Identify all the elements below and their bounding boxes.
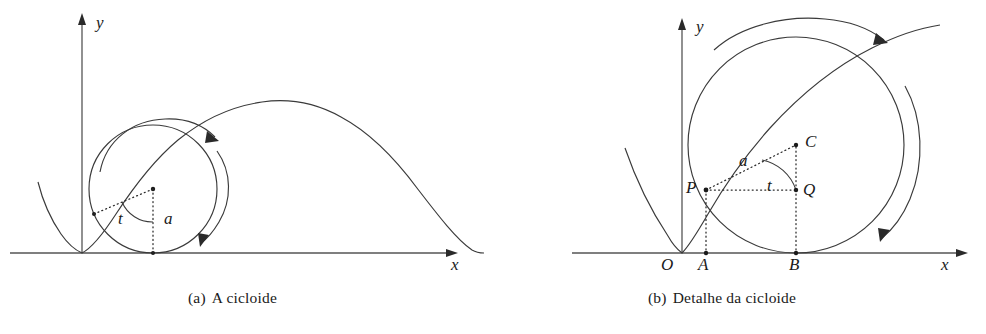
figure-a-radius-label: a (164, 210, 173, 227)
figure-a-y-axis-label: y (96, 14, 104, 31)
figure-b-segment-PC (706, 145, 796, 190)
figure-a-angle-label: t (118, 210, 123, 227)
figure-a-y-axis-arrowhead (78, 13, 86, 25)
figure-b-y-axis-arrowhead (678, 18, 686, 30)
figure-b-rotation-arrow-top-head (873, 33, 888, 45)
figure-b-rotation-arrow-top (714, 18, 884, 50)
figure-a-x-axis-label: x (451, 256, 459, 273)
figure-b-point-Q-dot (794, 188, 798, 192)
figure-b-caption-text: Detalhe da cicloide (673, 289, 796, 306)
figure-b-x-axis-arrowhead (956, 249, 968, 257)
figure-b-point-label-C: C (805, 133, 816, 150)
figure-b-group (572, 18, 968, 257)
figure-b-rotation-arrow-right (882, 86, 920, 238)
figure-a-cycloid-curve (38, 101, 484, 253)
figure-b-point-label-A: A (698, 256, 708, 273)
figure-a-rotation-arrow-right (201, 151, 229, 243)
figure-b-caption-tag: (b) (648, 289, 667, 306)
figure-a-rotation-arrow-right-head (198, 233, 209, 247)
figure-b-x-axis-label: x (941, 256, 949, 273)
figure-b-point-label-Q: Q (803, 181, 815, 198)
figure-b-point-C-dot (794, 143, 798, 147)
figure-a-group (10, 13, 484, 257)
figure-b-caption: (b)Detalhe da cicloide (648, 290, 796, 306)
figure-b-point-label-B: B (789, 256, 799, 273)
figure-a-rotation-arrow-top-head (205, 131, 219, 143)
figure-a-caption-text: A cicloide (212, 289, 277, 306)
figure-b-point-P-dot (704, 188, 709, 193)
figure-a-rotation-arrow-top (100, 119, 215, 172)
cycloid-figure-pair: y x t a y x O A B P Q C a t (a)A cicloid… (0, 0, 986, 334)
figure-b-radius-label: a (739, 152, 748, 169)
figure-b-rotation-arrow-right-head (878, 228, 890, 242)
figure-a-caption-tag: (a) (188, 289, 206, 306)
figure-b-point-label-P: P (686, 179, 696, 196)
figure-b-point-label-O: O (661, 256, 673, 273)
figure-a-angle-arc (122, 202, 153, 222)
figure-b-y-axis-label: y (696, 18, 704, 35)
figure-b-angle-label: t (767, 177, 772, 194)
figure-a-caption: (a)A cicloide (188, 290, 277, 306)
figure-b-cycloid-curve (625, 25, 940, 253)
figure-a-radius-to-point-dotted (94, 189, 153, 214)
figure-svg-canvas (0, 0, 986, 334)
